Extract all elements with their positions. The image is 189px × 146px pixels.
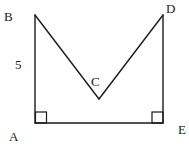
vertex-label-e: E — [178, 122, 186, 137]
segment-cd — [99, 15, 163, 99]
segment-bc — [35, 15, 99, 99]
right-angle-marker-a — [36, 112, 47, 123]
vertex-label-a: A — [9, 129, 19, 144]
geometry-diagram: B D C A E 5 — [0, 0, 189, 146]
right-angle-marker-e — [152, 112, 163, 123]
vertex-label-d: D — [166, 1, 175, 16]
side-length-label-ab: 5 — [15, 57, 22, 72]
vertex-label-b: B — [4, 9, 13, 24]
vertex-label-c: C — [91, 74, 100, 89]
